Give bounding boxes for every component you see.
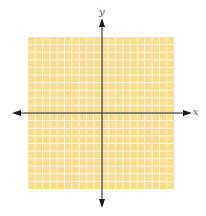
x-axis-right-arrow-icon (183, 110, 192, 116)
x-axis-label: x (193, 106, 199, 117)
x-axis-left-arrow-icon (12, 110, 21, 116)
coordinate-plane (0, 0, 206, 216)
y-axis-label: y (99, 6, 105, 17)
y-axis-up-arrow-icon (99, 18, 105, 27)
y-axis-down-arrow-icon (99, 199, 105, 208)
